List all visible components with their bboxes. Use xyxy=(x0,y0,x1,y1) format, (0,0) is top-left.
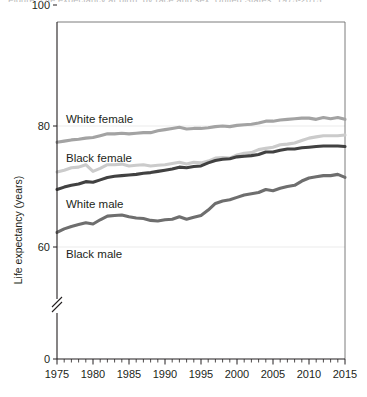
y-tick-label-60: 60 xyxy=(38,241,50,253)
plot-background xyxy=(57,22,345,359)
figure-container: Figure. Life expectancy at birth, by rac… xyxy=(0,0,367,397)
inline-label-black-male: Black male xyxy=(66,248,122,260)
inline-label-white-female: White female xyxy=(66,113,133,125)
x-tick-label-2010: 2010 xyxy=(297,368,321,380)
inline-label-white-male: White male xyxy=(66,198,124,210)
x-tick-label-2000: 2000 xyxy=(225,368,249,380)
x-tick-label-1985: 1985 xyxy=(117,368,141,380)
y-tick-label-80: 80 xyxy=(38,120,50,132)
y-axis-title-text: Life expectancy (years) xyxy=(12,176,24,285)
inline-label-black-female: Black female xyxy=(66,152,132,164)
x-axis-tick-labels: 197519801985199019952000200520102015 xyxy=(45,368,357,380)
x-tick-label-2005: 2005 xyxy=(261,368,285,380)
life-expectancy-line-chart: 06080100 1975198019851990199520002005201… xyxy=(0,0,367,397)
cut-off-caption: Figure. Life expectancy at birth, by rac… xyxy=(8,0,322,2)
y-tick-label-0: 0 xyxy=(44,353,50,365)
x-tick-label-1975: 1975 xyxy=(45,368,69,380)
x-tick-label-1995: 1995 xyxy=(189,368,213,380)
y-axis-tick-labels: 06080100 xyxy=(32,0,50,365)
x-tick-label-1990: 1990 xyxy=(153,368,177,380)
y-axis-title: Life expectancy (years) xyxy=(12,176,24,285)
x-tick-label-2015: 2015 xyxy=(333,368,357,380)
x-tick-label-1980: 1980 xyxy=(81,368,105,380)
